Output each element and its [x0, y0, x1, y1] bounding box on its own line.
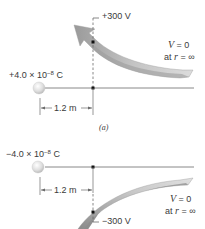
- at-infinity-label-a: at r = ∞: [164, 52, 195, 62]
- distance-label-a: 1.2 m: [54, 104, 77, 113]
- charge-label-b: −4.0 × 10−8 C: [6, 149, 60, 159]
- point-charge-sphere: [32, 161, 44, 173]
- potential-marker: [92, 41, 95, 44]
- potential-label-b: −300 V: [102, 217, 131, 226]
- figure-caption-a: (a): [99, 124, 108, 132]
- panel-a: [33, 18, 194, 115]
- potential-label-a: +300 V: [102, 12, 131, 21]
- at-infinity-label-b: at r = ∞: [165, 206, 196, 216]
- v-zero-label-a: V = 0: [168, 40, 189, 50]
- v-zero-label-b: V = 0: [170, 194, 191, 204]
- charge-label-a: +4.0 × 10−8 C: [9, 70, 63, 80]
- point-charge-sphere: [33, 82, 45, 94]
- potential-marker: [92, 211, 95, 214]
- distance-label-b: 1.2 m: [54, 186, 77, 195]
